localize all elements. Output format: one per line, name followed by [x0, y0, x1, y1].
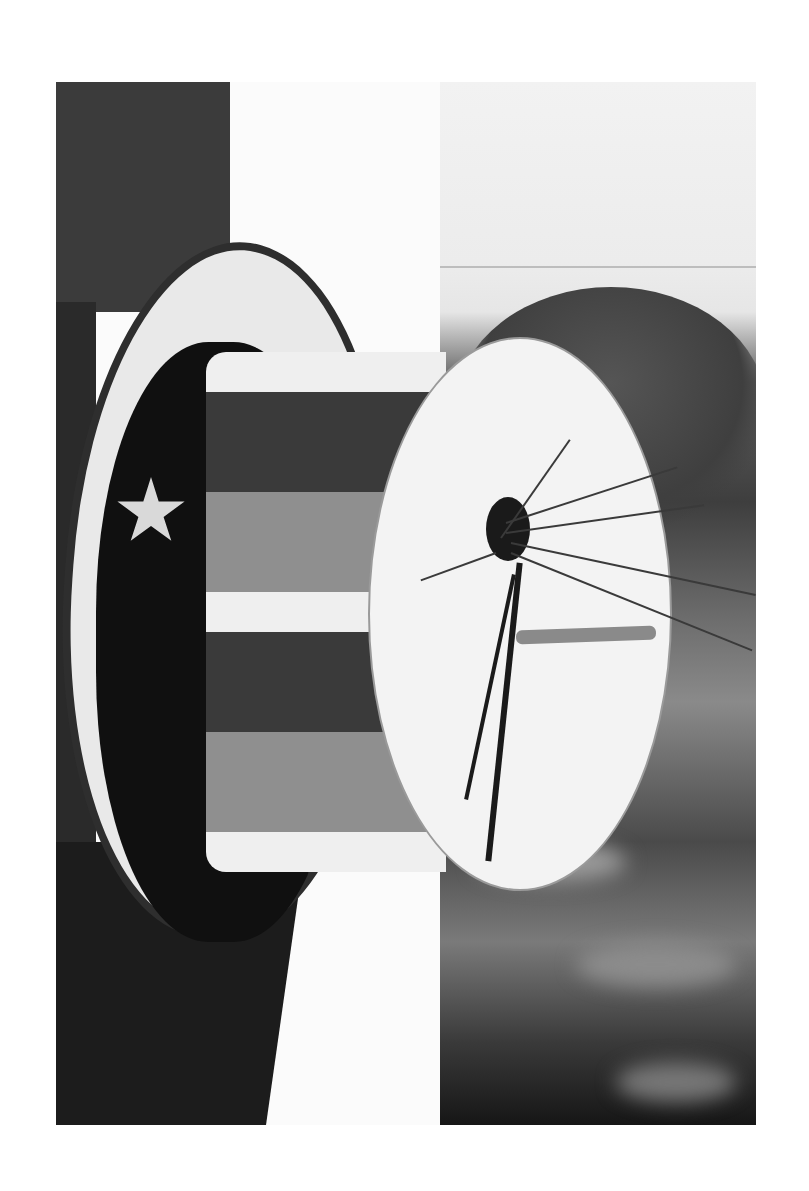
hat-top-disc — [368, 337, 672, 891]
photograph — [56, 82, 756, 1125]
lawn-patch — [616, 1062, 736, 1102]
lawn-patch — [576, 942, 736, 987]
power-line — [440, 266, 756, 268]
